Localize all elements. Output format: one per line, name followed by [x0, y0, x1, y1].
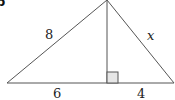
part-label: b	[0, 0, 5, 9]
right-angle-marker	[107, 72, 118, 83]
label-right-side: x	[147, 28, 155, 43]
triangle-diagram: b 8 x 6 4	[0, 0, 175, 100]
label-left-side: 8	[45, 27, 53, 42]
label-base-left: 6	[53, 86, 61, 100]
label-base-right: 4	[137, 86, 145, 100]
